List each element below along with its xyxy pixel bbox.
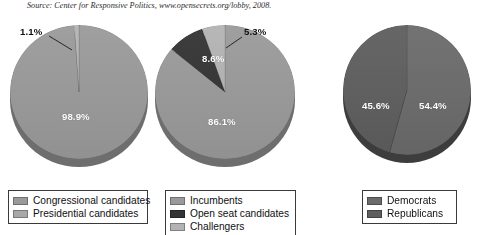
legend-item[interactable]: Presidential candidates bbox=[13, 207, 141, 220]
legend-label: Incumbents bbox=[190, 195, 243, 207]
legend-swatch-open-seat-candidates bbox=[170, 210, 185, 218]
pie-graphic-2 bbox=[343, 25, 471, 167]
legend-swatch-presidential-candidates bbox=[13, 210, 28, 218]
legend-item[interactable]: Democrats bbox=[367, 194, 450, 207]
pie-chart-candidate-status: 86.1% 8.6% 5.3% Incumbents Open seat can… bbox=[150, 14, 310, 235]
legend-label: Congressional candidates bbox=[33, 195, 150, 207]
legend-label: Presidential candidates bbox=[33, 208, 138, 220]
legend-swatch-democrats bbox=[367, 197, 382, 205]
pie-disc-2 bbox=[343, 25, 471, 155]
legend-item[interactable]: Challengers bbox=[170, 220, 289, 233]
legend-item[interactable]: Open seat candidates bbox=[170, 207, 289, 220]
legend-candidate-type: Congressional candidates Presidential ca… bbox=[8, 190, 148, 224]
legend-label: Democrats bbox=[387, 195, 436, 207]
legend-item[interactable]: Congressional candidates bbox=[13, 194, 141, 207]
slice-label-54-4: 54.4% bbox=[419, 100, 447, 111]
pie-chart-candidate-type: 98.9% 1.1% Congressional candidates Pres… bbox=[0, 14, 160, 235]
legend-swatch-congressional-candidates bbox=[13, 197, 28, 205]
legend-label: Challengers bbox=[190, 221, 244, 233]
legend-swatch-incumbents bbox=[170, 197, 185, 205]
slice-label-86-1: 86.1% bbox=[208, 116, 236, 127]
callout-leader-line-1 bbox=[150, 14, 310, 74]
slice-label-98-9: 98.9% bbox=[62, 111, 90, 122]
callout-leader-line-0 bbox=[0, 14, 160, 74]
legend-swatch-republicans bbox=[367, 210, 382, 218]
slice-label-45-6: 45.6% bbox=[362, 100, 390, 111]
legend-label: Republicans bbox=[387, 208, 443, 220]
pie-chart-party: 45.6% 54.4% Democrats Republicans bbox=[330, 14, 490, 235]
legend-item[interactable]: Incumbents bbox=[170, 194, 289, 207]
legend-swatch-challengers bbox=[170, 223, 185, 231]
legend-candidate-status: Incumbents Open seat candidates Challeng… bbox=[165, 190, 296, 235]
legend-item[interactable]: Republicans bbox=[367, 207, 450, 220]
source-citation: Source: Center for Responsive Politics, … bbox=[27, 1, 271, 10]
legend-label: Open seat candidates bbox=[190, 208, 289, 220]
legend-party: Democrats Republicans bbox=[362, 190, 457, 224]
